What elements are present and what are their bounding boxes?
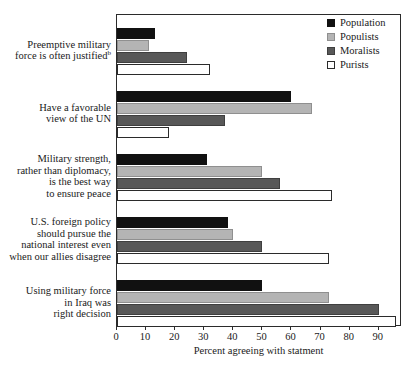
legend-item-label: Populists <box>340 31 379 42</box>
category-label-1: Preemptive militaryforce is often justif… <box>3 39 111 62</box>
x-tick <box>320 326 321 330</box>
bar-population-group-4 <box>117 217 228 228</box>
category-label-line: view of the UN <box>3 113 111 125</box>
x-tick-label: 10 <box>131 331 159 342</box>
legend-swatch-icon <box>327 19 335 27</box>
chart-legend: PopulationPopulistsMoralistsPurists <box>327 16 411 72</box>
legend-swatch-icon <box>327 47 335 55</box>
legend-swatch-icon <box>327 33 335 41</box>
x-tick <box>203 326 204 330</box>
category-label-4: U.S. foreign policyshould pursue thenati… <box>3 216 111 262</box>
x-axis-title: Percent agreeing with statment <box>116 345 401 356</box>
category-label-line: right decision <box>3 308 111 320</box>
category-label-2: Have a favorableview of the UN <box>3 102 111 125</box>
bar-populists-group-5 <box>117 292 329 303</box>
bar-populists-group-2 <box>117 103 312 114</box>
legend-item-populists: Populists <box>327 30 411 43</box>
category-label-5: Using military forcein Iraq wasright dec… <box>3 285 111 320</box>
category-label-line: U.S. foreign policy <box>3 216 111 228</box>
category-label-line: national interest even <box>3 239 111 251</box>
x-tick <box>145 326 146 330</box>
x-tick <box>261 326 262 330</box>
bar-populists-group-3 <box>117 166 262 177</box>
category-label-line: to ensure peace <box>3 188 111 200</box>
legend-swatch-icon <box>327 61 335 69</box>
bar-moralists-group-2 <box>117 115 225 126</box>
bar-moralists-group-3 <box>117 178 280 189</box>
x-tick <box>232 326 233 330</box>
bar-moralists-group-4 <box>117 241 262 252</box>
category-label-line: in Iraq was <box>3 297 111 309</box>
x-tick <box>378 326 379 330</box>
bar-population-group-3 <box>117 154 207 165</box>
x-tick-label: 60 <box>276 331 304 342</box>
legend-item-label: Moralists <box>340 45 380 56</box>
category-label-line: should pursue the <box>3 228 111 240</box>
category-label-line: force is often justifiedb <box>3 50 111 62</box>
bar-purists-group-4 <box>117 253 329 264</box>
bar-purists-group-3 <box>117 190 332 201</box>
footnote-marker: b <box>108 49 112 57</box>
category-label-line: rather than diplomacy, <box>3 165 111 177</box>
category-label-line: Using military force <box>3 285 111 297</box>
category-label-line: Military strength, <box>3 153 111 165</box>
x-tick-label: 40 <box>218 331 246 342</box>
x-tick-label: 80 <box>335 331 363 342</box>
x-tick <box>349 326 350 330</box>
x-tick-label: 0 <box>102 331 130 342</box>
category-label-line: Preemptive military <box>3 39 111 51</box>
legend-item-label: Purists <box>340 59 369 70</box>
bar-populists-group-1 <box>117 40 149 51</box>
x-tick-label: 20 <box>160 331 188 342</box>
bar-moralists-group-1 <box>117 52 187 63</box>
x-tick <box>174 326 175 330</box>
bar-chart-figure: Preemptive militaryforce is often justif… <box>0 0 417 365</box>
category-label-line: Have a favorable <box>3 102 111 114</box>
x-tick-label: 90 <box>364 331 392 342</box>
legend-item-moralists: Moralists <box>327 44 411 57</box>
bar-population-group-2 <box>117 91 291 102</box>
bar-populists-group-4 <box>117 229 233 240</box>
legend-item-purists: Purists <box>327 58 411 71</box>
category-label-3: Military strength,rather than diplomacy,… <box>3 153 111 199</box>
x-tick <box>290 326 291 330</box>
category-label-line: when our allies disagree <box>3 251 111 263</box>
bar-purists-group-1 <box>117 64 210 75</box>
category-label-line: is the best way <box>3 176 111 188</box>
legend-item-population: Population <box>327 16 411 29</box>
legend-item-label: Population <box>340 17 386 28</box>
x-tick-label: 30 <box>189 331 217 342</box>
x-tick-label: 50 <box>247 331 275 342</box>
bar-moralists-group-5 <box>117 304 379 315</box>
x-tick <box>116 326 117 330</box>
bar-population-group-1 <box>117 28 155 39</box>
bar-purists-group-2 <box>117 127 169 138</box>
x-tick-label: 70 <box>306 331 334 342</box>
bar-population-group-5 <box>117 280 262 291</box>
x-axis: 0102030405060708090 <box>116 326 401 327</box>
